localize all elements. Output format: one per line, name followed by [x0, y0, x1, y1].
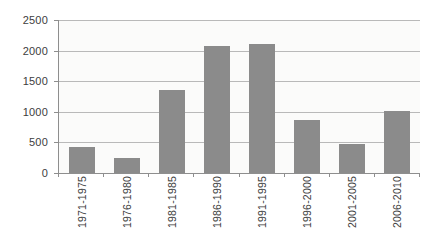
x-tick: [419, 173, 420, 177]
x-axis-label-2001-2005: 2001-2005: [346, 176, 358, 236]
x-tick: [148, 173, 149, 177]
x-axis-label-1971-1975: 1971-1975: [76, 176, 88, 236]
x-tick: [374, 173, 375, 177]
bar-chart: 05001000150020002500 1971-19751976-19801…: [0, 0, 441, 245]
gridline-500: [59, 142, 420, 143]
x-axis-label-1991-1995: 1991-1995: [256, 176, 268, 236]
bar-1996-2000: [294, 120, 320, 173]
y-axis-line: [58, 20, 59, 174]
plot-area: [59, 20, 420, 173]
y-axis-label-2500: 2500: [10, 14, 48, 26]
x-tick: [193, 173, 194, 177]
y-tick: [54, 20, 58, 21]
x-axis-label-1986-1990: 1986-1990: [211, 176, 223, 236]
y-axis-label-1000: 1000: [10, 106, 48, 118]
gridline-2000: [59, 51, 420, 52]
x-tick: [329, 173, 330, 177]
gridline-1000: [59, 112, 420, 113]
bar-2001-2005: [339, 144, 365, 173]
x-axis-label-1981-1985: 1981-1985: [166, 176, 178, 236]
y-axis-label-2000: 2000: [10, 45, 48, 57]
y-tick: [54, 112, 58, 113]
bar-1971-1975: [69, 147, 95, 173]
y-tick: [54, 51, 58, 52]
y-axis-label-500: 500: [10, 136, 48, 148]
bar-1986-1990: [204, 46, 230, 173]
bar-2006-2010: [384, 111, 410, 173]
x-tick: [103, 173, 104, 177]
gridline-2500: [59, 20, 420, 21]
bar-1976-1980: [114, 158, 140, 173]
gridline-1500: [59, 81, 420, 82]
x-axis-label-2006-2010: 2006-2010: [391, 176, 403, 236]
bar-1981-1985: [159, 90, 185, 173]
y-tick: [54, 81, 58, 82]
x-tick: [284, 173, 285, 177]
x-axis-label-1976-1980: 1976-1980: [121, 176, 133, 236]
y-tick: [54, 142, 58, 143]
y-axis-label-0: 0: [10, 167, 48, 179]
x-tick: [239, 173, 240, 177]
x-axis-label-1996-2000: 1996-2000: [301, 176, 313, 236]
bar-1991-1995: [249, 44, 275, 173]
x-tick: [58, 173, 59, 177]
y-axis-label-1500: 1500: [10, 75, 48, 87]
